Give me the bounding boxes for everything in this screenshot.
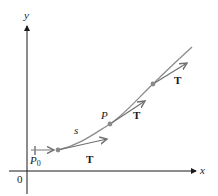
point-p-label: P xyxy=(101,110,108,121)
origin-label: 0 xyxy=(17,174,23,185)
tangent-vector-3 xyxy=(153,63,187,84)
x-axis-label: x xyxy=(200,165,205,176)
point-p xyxy=(108,122,113,127)
p0-label: P0 xyxy=(30,155,41,168)
p0-letter: P xyxy=(30,154,37,166)
point-1 xyxy=(56,148,61,153)
tangent-label-3: T xyxy=(174,75,181,86)
y-axis-label: y xyxy=(24,10,29,21)
unit-tangent-diagram: y x 0 P0 s P T T T xyxy=(0,0,218,196)
tangent-label-2: T xyxy=(133,110,140,121)
p0-subscript: 0 xyxy=(37,159,41,168)
point-3 xyxy=(151,82,156,87)
arc-length-label: s xyxy=(74,125,78,136)
tangent-label-1: T xyxy=(86,154,93,165)
